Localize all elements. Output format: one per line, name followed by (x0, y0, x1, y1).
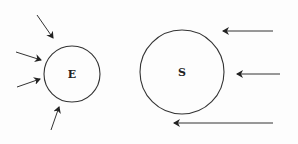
body-e: E (44, 46, 100, 102)
e-arrow-4 (51, 107, 59, 130)
body-s: S (140, 30, 224, 114)
diagram-canvas: E S (0, 0, 298, 144)
e-arrow-2 (16, 52, 41, 60)
diagram-svg: E S (0, 0, 298, 144)
label-e: E (68, 68, 76, 81)
e-arrow-3 (17, 79, 40, 87)
e-arrow-1 (37, 15, 53, 38)
arrows-toward-e (16, 15, 59, 130)
label-s: S (178, 66, 186, 79)
arrows-toward-s (174, 31, 280, 123)
